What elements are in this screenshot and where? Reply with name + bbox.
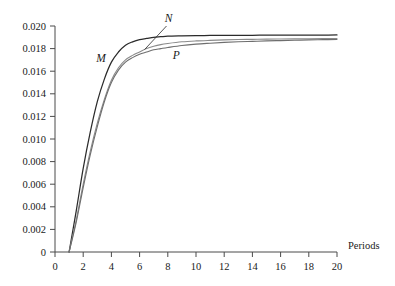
y-tick-label: 0.016	[22, 66, 46, 77]
y-tick-labels: 00.0020.0040.0060.0080.0100.0120.0140.01…	[22, 21, 46, 258]
x-axis: 02468101214161820	[52, 252, 342, 272]
y-tick-label: 0.004	[22, 201, 46, 212]
line-chart-svg: 00.0020.0040.0060.0080.0100.0120.0140.01…	[0, 0, 395, 286]
y-tick-label: 0.014	[22, 88, 46, 99]
y-tick-label: 0.010	[22, 134, 46, 145]
y-tick-label: 0.018	[22, 43, 46, 54]
y-tick-label: 0.006	[22, 179, 46, 190]
x-tick-label: 6	[137, 261, 142, 272]
x-tick-label: 8	[165, 261, 170, 272]
y-tick-label: 0.020	[22, 21, 46, 32]
curve-p	[69, 39, 337, 252]
curve-n	[69, 39, 337, 252]
x-axis-title: Periods	[348, 240, 380, 251]
curve-label-m: M	[95, 52, 107, 64]
y-tick-label: 0	[41, 247, 46, 258]
x-tick-label: 18	[304, 261, 315, 272]
y-tick-label: 0.012	[22, 111, 46, 122]
x-tick-label: 12	[219, 261, 230, 272]
x-tick-label: 10	[191, 261, 202, 272]
x-tick-label: 16	[275, 261, 286, 272]
curve-label-p: P	[172, 49, 180, 61]
x-tick-label: 2	[81, 261, 86, 272]
y-tick-marks	[50, 26, 55, 252]
curve-m	[69, 35, 337, 252]
x-tick-label: 0	[52, 261, 57, 272]
data-curves	[69, 35, 337, 252]
curve-label-n: N	[164, 12, 174, 24]
curve-annotations: MNP	[95, 12, 179, 64]
x-tick-marks	[55, 252, 337, 257]
chart-figure: 00.0020.0040.0060.0080.0100.0120.0140.01…	[0, 0, 395, 286]
y-tick-label: 0.008	[22, 156, 46, 167]
x-tick-labels: 02468101214161820	[52, 261, 342, 272]
x-tick-label: 20	[332, 261, 343, 272]
x-tick-label: 14	[247, 261, 258, 272]
y-tick-label: 0.002	[22, 224, 46, 235]
x-tick-label: 4	[109, 261, 115, 272]
y-axis: 00.0020.0040.0060.0080.0100.0120.0140.01…	[22, 21, 55, 258]
